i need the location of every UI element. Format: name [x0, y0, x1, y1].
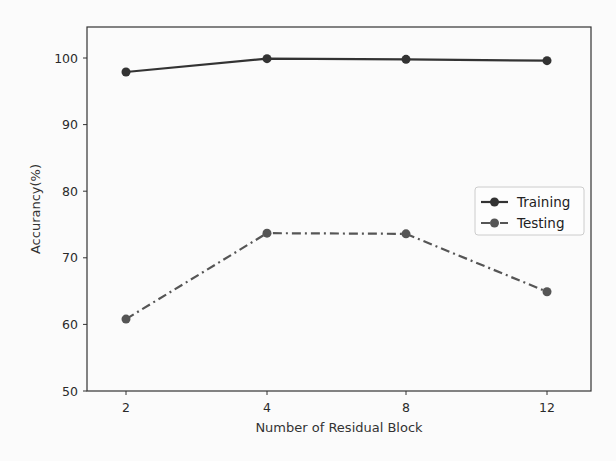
data-point — [543, 56, 552, 65]
x-tick-label: 12 — [539, 400, 555, 415]
x-tick-label: 2 — [122, 400, 130, 415]
y-axis-label: Accurancy(%) — [28, 164, 43, 254]
line-chart: 5060708090100 24812 Number of Residual B… — [0, 0, 616, 461]
y-tick-label: 90 — [62, 117, 78, 132]
legend-marker — [490, 219, 499, 228]
legend-marker — [490, 198, 499, 207]
x-axis-ticks: 24812 — [122, 391, 555, 415]
data-point — [402, 229, 411, 238]
legend: TrainingTesting — [475, 187, 584, 235]
y-tick-label: 80 — [62, 184, 78, 199]
series-testing — [126, 233, 547, 319]
y-tick-label: 100 — [54, 51, 78, 66]
y-axis-ticks: 5060708090100 — [54, 51, 87, 399]
x-tick-label: 8 — [402, 400, 410, 415]
series-training — [126, 59, 547, 72]
x-axis-label: Number of Residual Block — [255, 420, 423, 435]
y-tick-label: 60 — [62, 317, 78, 332]
legend-label: Training — [516, 194, 570, 210]
y-tick-label: 70 — [62, 250, 78, 265]
y-tick-label: 50 — [62, 384, 78, 399]
data-point — [263, 54, 272, 63]
x-tick-label: 4 — [263, 400, 271, 415]
data-point — [122, 315, 131, 324]
data-point — [543, 287, 552, 296]
data-point — [402, 55, 411, 64]
data-point — [122, 67, 131, 76]
data-point — [263, 229, 272, 238]
legend-label: Testing — [516, 215, 564, 231]
